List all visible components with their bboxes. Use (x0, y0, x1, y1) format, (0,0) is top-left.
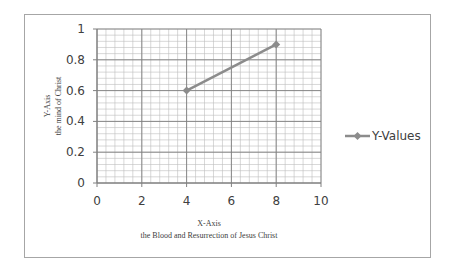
x-tick-label: 2 (138, 194, 146, 208)
x-tick-label: 6 (228, 194, 236, 208)
legend-marker (354, 132, 362, 140)
axes (93, 29, 321, 187)
y-tick-label: 0.8 (66, 53, 85, 67)
y-tick-label: 0.4 (66, 114, 85, 128)
x-axis-title: X-Axis (197, 219, 221, 228)
y-axis-title: Y-Axis (43, 95, 52, 118)
legend: Y-Values (345, 129, 421, 143)
line-chart: 024681000.20.40.60.81 X-Axis the Blood a… (0, 0, 456, 273)
x-tick-label: 10 (313, 194, 328, 208)
y-tick-label: 0.6 (66, 84, 85, 98)
x-tick-label: 8 (272, 194, 280, 208)
grid (97, 29, 321, 183)
y-tick-label: 0 (77, 176, 85, 190)
x-tick-label: 0 (93, 194, 101, 208)
x-tick-label: 4 (183, 194, 191, 208)
x-axis-subtitle: the Blood and Resurrection of Jesus Chri… (141, 231, 279, 240)
y-axis-subtitle: the mind of Christ (54, 76, 63, 135)
y-tick-label: 0.2 (66, 145, 85, 159)
legend-label: Y-Values (371, 129, 421, 143)
y-tick-label: 1 (77, 22, 85, 36)
